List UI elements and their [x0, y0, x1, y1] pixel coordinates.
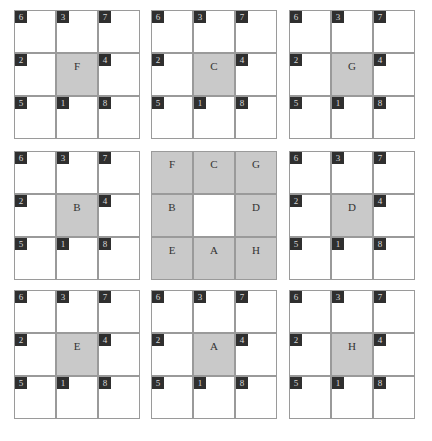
- panel-D: 6372D4518: [289, 151, 415, 281]
- neighbor-cell: 7: [373, 290, 415, 333]
- panel-B: 6372B4518: [14, 151, 140, 281]
- neighbor-index-badge: 5: [290, 238, 302, 250]
- neighbor-index-badge: 7: [374, 152, 386, 164]
- neighbor-cell: 6: [151, 10, 193, 53]
- neighbor-cell: 7: [235, 10, 277, 53]
- key-cell: G: [235, 151, 277, 194]
- neighbor-index-badge: 7: [99, 291, 111, 303]
- center-cell: C: [193, 53, 235, 96]
- neighbor-index-badge: 7: [374, 11, 386, 23]
- neighbor-cell: 2: [289, 194, 331, 237]
- key-cell: H: [235, 237, 277, 280]
- neighbor-cell: 7: [373, 151, 415, 194]
- center-cell: A: [193, 333, 235, 376]
- neighbor-index-badge: 6: [290, 11, 302, 23]
- neighbor-index-badge: 6: [15, 152, 27, 164]
- key-center-cell: [193, 194, 235, 237]
- cell-letter: G: [236, 158, 276, 170]
- neighbor-cell: 6: [14, 151, 56, 194]
- center-letter: F: [57, 60, 97, 72]
- panel-C: 6372C4518: [151, 10, 277, 140]
- neighbor-cell: 3: [331, 151, 373, 194]
- neighbor-index-badge: 5: [15, 377, 27, 389]
- center-letter: G: [332, 60, 372, 72]
- neighbor-index-badge: 6: [15, 291, 27, 303]
- neighbor-cell: 2: [151, 53, 193, 96]
- neighbor-index-badge: 4: [99, 54, 111, 66]
- neighbor-index-badge: 3: [332, 291, 344, 303]
- neighbor-index-badge: 2: [290, 334, 302, 346]
- neighbor-index-badge: 8: [99, 377, 111, 389]
- key-cell: C: [193, 151, 235, 194]
- neighbor-index-badge: 3: [194, 11, 206, 23]
- neighbor-index-badge: 6: [290, 152, 302, 164]
- neighbor-index-badge: 7: [99, 152, 111, 164]
- neighbor-index-badge: 7: [374, 291, 386, 303]
- neighbor-cell: 8: [98, 237, 140, 280]
- neighbor-cell: 4: [98, 194, 140, 237]
- neighbor-index-badge: 1: [57, 238, 69, 250]
- panel-E: 6372E4518: [14, 290, 140, 420]
- panel-G: 6372G4518: [289, 10, 415, 140]
- neighbor-index-badge: 3: [57, 11, 69, 23]
- neighbor-index-badge: 5: [15, 238, 27, 250]
- cell-letter: D: [236, 201, 276, 213]
- neighbor-cell: 1: [193, 96, 235, 139]
- neighbor-index-badge: 8: [374, 238, 386, 250]
- neighbor-index-badge: 2: [152, 334, 164, 346]
- neighbor-cell: 1: [56, 237, 98, 280]
- neighbor-index-badge: 3: [332, 152, 344, 164]
- neighbor-index-badge: 4: [374, 334, 386, 346]
- neighbor-cell: 5: [289, 237, 331, 280]
- neighbor-cell: 6: [151, 290, 193, 333]
- neighbor-index-badge: 1: [194, 377, 206, 389]
- neighbor-cell: 7: [235, 290, 277, 333]
- neighbor-index-badge: 7: [236, 291, 248, 303]
- neighbor-index-badge: 6: [15, 11, 27, 23]
- neighbor-cell: 3: [56, 151, 98, 194]
- neighbor-index-badge: 2: [15, 195, 27, 207]
- neighbor-index-badge: 1: [332, 377, 344, 389]
- center-cell: F: [56, 53, 98, 96]
- neighbor-cell: 4: [373, 53, 415, 96]
- neighbor-cell: 2: [151, 333, 193, 376]
- neighbor-index-badge: 3: [57, 291, 69, 303]
- neighbor-index-badge: 4: [374, 54, 386, 66]
- cell-letter: H: [236, 244, 276, 256]
- neighbor-index-badge: 3: [194, 291, 206, 303]
- neighbor-index-badge: 5: [290, 97, 302, 109]
- neighbor-cell: 5: [14, 96, 56, 139]
- neighbor-index-badge: 8: [236, 97, 248, 109]
- neighbor-cell: 1: [56, 96, 98, 139]
- center-cell: H: [331, 333, 373, 376]
- neighbor-index-badge: 5: [15, 97, 27, 109]
- neighbor-cell: 1: [331, 376, 373, 419]
- neighbor-cell: 3: [331, 290, 373, 333]
- cell-letter: B: [152, 201, 192, 213]
- neighbor-cell: 3: [331, 10, 373, 53]
- neighbor-cell: 1: [331, 237, 373, 280]
- panel-H: 6372H4518: [289, 290, 415, 420]
- neighbor-cell: 7: [98, 10, 140, 53]
- neighbor-cell: 3: [56, 290, 98, 333]
- neighbor-index-badge: 1: [57, 97, 69, 109]
- neighbor-cell: 6: [14, 290, 56, 333]
- neighbor-index-badge: 8: [374, 377, 386, 389]
- neighbor-index-badge: 2: [15, 334, 27, 346]
- key-cell: B: [151, 194, 193, 237]
- neighbor-index-badge: 8: [236, 377, 248, 389]
- neighbor-index-badge: 2: [152, 54, 164, 66]
- cell-letter: C: [194, 158, 234, 170]
- neighbor-index-badge: 3: [332, 11, 344, 23]
- neighbor-cell: 2: [289, 53, 331, 96]
- center-cell: B: [56, 194, 98, 237]
- key-cell: A: [193, 237, 235, 280]
- neighbor-index-badge: 3: [57, 152, 69, 164]
- center-cell: D: [331, 194, 373, 237]
- neighbor-cell: 8: [98, 96, 140, 139]
- neighbor-cell: 7: [98, 290, 140, 333]
- cell-letter: E: [152, 244, 192, 256]
- center-letter: H: [332, 340, 372, 352]
- neighbor-index-badge: 8: [99, 238, 111, 250]
- neighbor-cell: 2: [14, 53, 56, 96]
